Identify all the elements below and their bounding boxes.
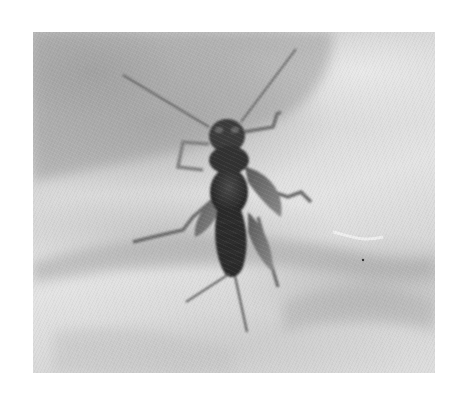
speck bbox=[362, 259, 364, 261]
photo-illustration bbox=[33, 32, 435, 373]
insect-photo bbox=[33, 32, 435, 373]
